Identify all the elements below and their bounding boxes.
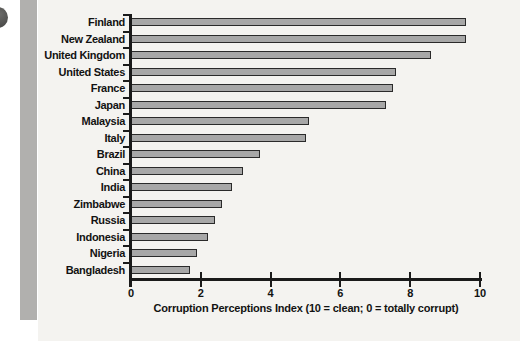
bar	[131, 35, 466, 43]
bar	[131, 216, 215, 224]
bar	[131, 150, 260, 158]
y-axis-line	[129, 14, 132, 287]
x-axis-tick	[130, 272, 132, 287]
bar-row: New Zealand	[0, 31, 520, 48]
category-label: Brazil	[97, 146, 125, 163]
bar	[131, 266, 190, 274]
x-axis-tick-label: 0	[116, 287, 146, 299]
x-axis-tick	[409, 272, 411, 287]
category-label: India	[101, 179, 125, 196]
bar-row: Brazil	[0, 146, 520, 163]
category-label: France	[91, 80, 125, 97]
bar	[131, 18, 466, 26]
bar-row: Finland	[0, 14, 520, 31]
bar	[131, 167, 243, 175]
x-axis-tick-label: 8	[395, 287, 425, 299]
bar-row: United Kingdom	[0, 47, 520, 64]
bar	[131, 101, 386, 109]
bar	[131, 233, 208, 241]
category-label: Indonesia	[76, 229, 125, 246]
bar-row: Malaysia	[0, 113, 520, 130]
category-label: Finland	[88, 14, 125, 31]
x-axis-tick	[339, 272, 341, 287]
category-label: Italy	[104, 130, 125, 147]
bar	[131, 51, 431, 59]
x-axis-tick	[479, 272, 481, 287]
x-axis-tick-label: 4	[256, 287, 286, 299]
x-axis-tick	[270, 272, 272, 287]
x-axis-line	[129, 278, 482, 281]
bar-row: United States	[0, 64, 520, 81]
bar-row: Japan	[0, 97, 520, 114]
bar	[131, 249, 197, 257]
category-label: Japan	[95, 97, 125, 114]
x-axis-tick-label: 2	[186, 287, 216, 299]
bar	[131, 68, 396, 76]
category-label: Nigeria	[90, 245, 125, 262]
category-label: Bangladesh	[66, 262, 125, 279]
x-axis-tick	[200, 272, 202, 287]
bar-row: Nigeria	[0, 245, 520, 262]
category-label: China	[96, 163, 125, 180]
category-label: United Kingdom	[44, 47, 125, 64]
bar	[131, 117, 309, 125]
bar-row: Zimbabwe	[0, 196, 520, 213]
category-label: United States	[59, 64, 125, 81]
page: FinlandNew ZealandUnited KingdomUnited S…	[0, 0, 520, 341]
bar-row: China	[0, 163, 520, 180]
bar	[131, 183, 232, 191]
x-axis-tick-label: 10	[465, 287, 495, 299]
bar-row: India	[0, 179, 520, 196]
bar	[131, 200, 222, 208]
bar-row: Italy	[0, 130, 520, 147]
bar-row: Indonesia	[0, 229, 520, 246]
x-axis-tick-label: 6	[325, 287, 355, 299]
category-label: Russia	[91, 212, 125, 229]
category-label: Malaysia	[82, 113, 125, 130]
bar	[131, 84, 393, 92]
bar	[131, 134, 306, 142]
bar-row: France	[0, 80, 520, 97]
category-label: Zimbabwe	[74, 196, 125, 213]
x-axis-title: Corruption Perceptions Index (10 = clean…	[131, 302, 481, 314]
bar-rows: FinlandNew ZealandUnited KingdomUnited S…	[0, 14, 520, 278]
bar-row: Russia	[0, 212, 520, 229]
bar-row: Bangladesh	[0, 262, 520, 279]
category-label: New Zealand	[61, 31, 125, 48]
